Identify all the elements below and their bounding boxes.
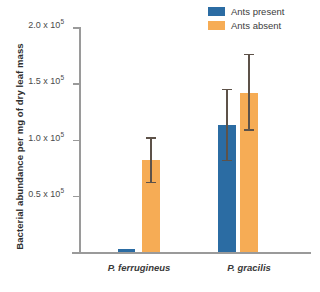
plot-area: 2.0 x 105 1.5 x 105 1.0 x 105 0.5 x 105 (79, 27, 311, 252)
errorbar-cap-top (244, 54, 254, 55)
legend-item-ants-present: Ants present (208, 6, 284, 17)
y-tick-label-50000: 0.5 x 105 (28, 189, 64, 200)
errorbar-cap-top (146, 137, 156, 138)
y-axis-title-text: Bacterial abundance per mg of dry leaf m… (14, 43, 25, 250)
bar-ferrugineus-ants-present (118, 249, 135, 252)
errorbar-cap-top (222, 89, 232, 90)
y-tick-label-200000: 2.0 x 105 (28, 20, 64, 31)
y-tick-label-150000: 1.5 x 105 (28, 76, 64, 87)
y-tick-label-100000: 1.0 x 105 (28, 133, 64, 144)
errorbar-cap-bottom (146, 182, 156, 183)
x-category-label-gracilis: P. gracilis (227, 262, 271, 273)
x-axis-line (72, 252, 311, 254)
legend-label-ants-present: Ants present (231, 6, 284, 17)
errorbar-cap-bottom (222, 160, 232, 161)
y-axis-line (79, 27, 81, 252)
bar-chart: Ants present Ants absent Bacterial abund… (0, 0, 320, 292)
errorbar-cap-bottom (244, 129, 254, 130)
y-tick-100000: 1.0 x 105 (73, 140, 79, 142)
errorbar-ferrugineus-ants-absent (150, 137, 151, 183)
x-category-label-ferrugineus: P. ferrugineus (108, 262, 171, 273)
errorbar-gracilis-ants-absent (248, 54, 249, 131)
y-tick-50000: 0.5 x 105 (73, 196, 79, 198)
y-tick-150000: 1.5 x 105 (73, 83, 79, 85)
y-tick-200000: 2.0 x 105 (73, 27, 79, 29)
y-axis-title: Bacterial abundance per mg of dry leaf m… (10, 0, 28, 292)
errorbar-gracilis-ants-present (226, 89, 227, 161)
legend-swatch-ants-present (208, 7, 225, 16)
